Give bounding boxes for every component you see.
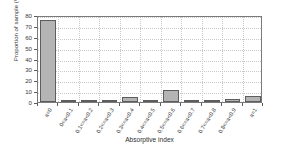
y-tick-mark: [34, 27, 37, 28]
x-axis-title: Absorptive index: [37, 136, 262, 143]
y-tick-label: 30: [8, 67, 32, 73]
gridline-horizontal: [38, 17, 261, 18]
y-tick-label: 0: [8, 100, 32, 106]
y-tick-label: 20: [8, 78, 32, 84]
y-tick-label: 80: [8, 13, 32, 19]
y-tick-mark: [34, 81, 37, 82]
y-tick-mark: [34, 70, 37, 71]
x-tick-mark: [37, 103, 38, 106]
bar: [40, 20, 56, 102]
x-tick-mark: [98, 103, 99, 106]
x-tick-mark: [57, 103, 58, 106]
y-tick-mark: [34, 38, 37, 39]
gridline-horizontal: [38, 50, 261, 51]
x-tick-mark: [180, 103, 181, 106]
gridline-vertical: [58, 17, 59, 102]
y-tick-mark: [34, 60, 37, 61]
y-tick-label: 60: [8, 35, 32, 41]
y-tick-mark: [34, 49, 37, 50]
gridline-horizontal: [38, 28, 261, 29]
x-tick-mark: [242, 103, 243, 106]
gridline-horizontal: [38, 71, 261, 72]
y-tick-mark: [34, 16, 37, 17]
y-tick-label: 10: [8, 89, 32, 95]
bar-chart-figure: Proportion of sample (%) 010203040506070…: [0, 0, 281, 154]
y-tick-label: 70: [8, 24, 32, 30]
gridline-horizontal: [38, 61, 261, 62]
x-tick-mark: [201, 103, 202, 106]
gridline-horizontal: [38, 39, 261, 40]
y-tick-label: 50: [8, 46, 32, 52]
y-tick-mark: [34, 92, 37, 93]
x-tick-mark: [139, 103, 140, 106]
y-tick-label: 40: [8, 57, 32, 63]
